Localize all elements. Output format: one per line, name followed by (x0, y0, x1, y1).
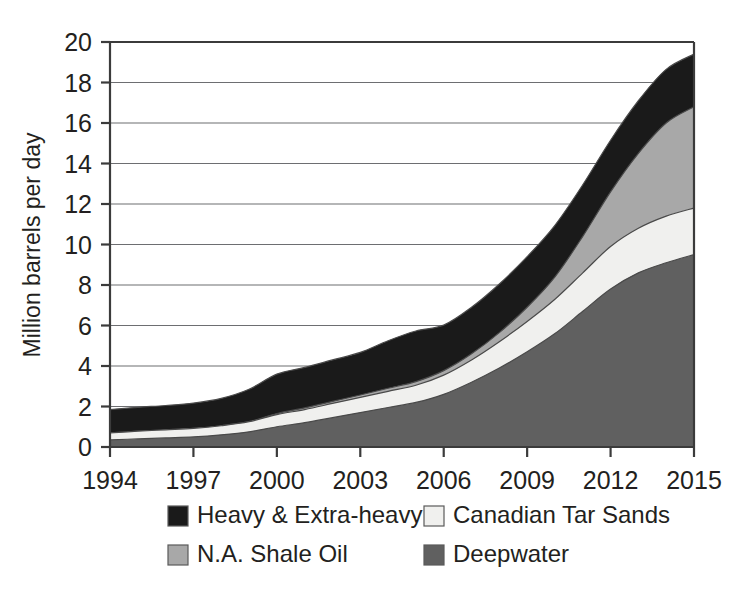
x-tick-label: 1997 (166, 466, 222, 494)
x-tick-label: 2009 (499, 466, 555, 494)
x-tick-label: 2015 (666, 466, 722, 494)
legend-item[interactable]: Heavy & Extra-heavy (168, 501, 422, 528)
y-tick-label: 18 (64, 69, 92, 97)
legend-label: Heavy & Extra-heavy (197, 501, 422, 528)
y-tick-label: 12 (64, 190, 92, 218)
legend-swatch (424, 506, 444, 526)
legend-swatch (424, 545, 444, 565)
legend-label: N.A. Shale Oil (197, 540, 348, 567)
y-tick-label: 6 (78, 312, 92, 340)
y-tick-label: 10 (64, 231, 92, 259)
y-tick-label: 2 (78, 393, 92, 421)
legend-swatch (168, 545, 188, 565)
legend-item[interactable]: Canadian Tar Sands (424, 501, 670, 528)
legend-swatch (168, 506, 188, 526)
x-tick-label: 2003 (332, 466, 388, 494)
x-tick-label: 1994 (82, 466, 138, 494)
legend-label: Deepwater (453, 540, 569, 567)
x-tick-label: 2000 (249, 466, 305, 494)
y-tick-label: 16 (64, 109, 92, 137)
legend-label: Canadian Tar Sands (453, 501, 670, 528)
x-tick-label: 2012 (583, 466, 639, 494)
chart-canvas: 02468101214161820 1994199720002003200620… (0, 0, 749, 590)
y-axis-title: Million barrels per day (19, 132, 45, 357)
y-tick-label: 20 (64, 28, 92, 56)
y-tick-label: 8 (78, 271, 92, 299)
y-tick-label: 0 (78, 433, 92, 461)
x-tick-label: 2006 (416, 466, 472, 494)
y-tick-label: 4 (78, 352, 92, 380)
y-tick-label: 14 (64, 150, 92, 178)
stacked-area-chart: 02468101214161820 1994199720002003200620… (0, 0, 749, 590)
